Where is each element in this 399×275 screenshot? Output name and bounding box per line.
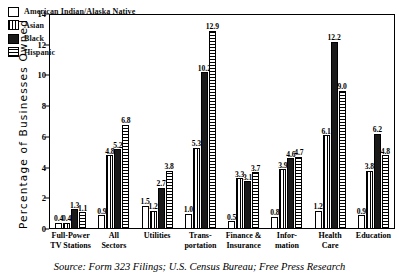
legend-item-hispanic: Hispanic [8, 46, 180, 60]
bar-value-label: 4.8 [381, 147, 391, 156]
bar-value-label: 6.2 [373, 125, 383, 134]
bar: 12.2 [331, 42, 338, 229]
bar-value-label: 6.8 [121, 116, 131, 125]
bar: 0.5 [228, 221, 235, 229]
x-axis-labels: Full-PowerTV StationsAllSectorsUtilities… [49, 231, 395, 255]
bar: 6.8 [122, 125, 129, 229]
bar-value-label: 6.1 [321, 127, 331, 136]
bar: 1.0 [185, 214, 192, 229]
source-caption: Source: Form 323 Filings; U.S. Census Bu… [0, 261, 399, 272]
bar-value-label: 0.5 [227, 213, 237, 222]
bar-group: 0.83.94.64.7 [265, 14, 308, 229]
bar: 3.1 [244, 181, 251, 229]
bar: 4.8 [382, 155, 389, 229]
bar-value-label: 1.2 [148, 202, 158, 211]
bar: 1.2 [315, 211, 322, 229]
bar: 4.8 [106, 155, 113, 229]
bar: 3.3 [236, 178, 243, 229]
x-category-label: Utilities [136, 231, 179, 241]
bar: 4.6 [287, 158, 294, 229]
x-category-label: Education [352, 231, 395, 241]
legend-label: Hispanic [24, 48, 55, 57]
x-category-label: Full-PowerTV Stations [49, 231, 92, 250]
legend-swatch-vertical-stripes-icon [8, 20, 19, 30]
bar-group: 1.26.112.29.0 [309, 14, 352, 229]
bar: 12.9 [209, 31, 216, 229]
bar: 6.1 [323, 135, 330, 229]
bar: 0.8 [271, 217, 278, 229]
bar: 1.1 [79, 212, 86, 229]
x-category-label: Trans-portation [179, 231, 222, 250]
bar: 10.2 [201, 72, 208, 229]
bar-value-label: 3.9 [278, 161, 288, 170]
bar-value-label: 3.8 [365, 162, 375, 171]
bar-value-label: 1.2 [313, 202, 323, 211]
x-category-label: AllSectors [92, 231, 135, 250]
x-category-label: HealthCare [309, 231, 352, 250]
legend-swatch-empty-icon [8, 7, 19, 17]
bar: 0.9 [98, 215, 105, 229]
chart-root: Percentage of Businesses Owned 024681012… [0, 0, 399, 275]
bar-value-label: 3.7 [251, 164, 261, 173]
x-category-label: Finance &Insurance [222, 231, 265, 250]
bar-value-label: 1.1 [78, 204, 88, 213]
bar: 3.7 [252, 172, 259, 229]
legend-label: Black [24, 34, 44, 43]
bar-value-label: 5.2 [113, 141, 123, 150]
bar-value-label: 12.9 [206, 22, 219, 31]
bar-value-label: 1.0 [184, 205, 194, 214]
bar-value-label: 9.0 [337, 82, 347, 91]
bar: 4.7 [295, 157, 302, 229]
bar-value-label: 0.4 [62, 214, 72, 223]
bar-group: 0.53.33.13.7 [222, 14, 265, 229]
bar: 3.8 [366, 171, 373, 229]
bar: 0.4 [63, 223, 70, 229]
legend: American Indian/Alaska Native Asian Blac… [8, 5, 180, 59]
legend-swatch-horizontal-stripes-icon [8, 47, 19, 57]
bar-value-label: 3.8 [164, 162, 174, 171]
bar: 1.2 [150, 211, 157, 229]
bar-group: 0.93.86.24.8 [352, 14, 395, 229]
legend-label: American Indian/Alaska Native [24, 7, 135, 16]
legend-item-american-indian: American Indian/Alaska Native [8, 5, 180, 19]
bar-value-label: 0.8 [270, 208, 280, 217]
bar-value-label: 12.2 [327, 33, 340, 42]
bar: 5.3 [193, 148, 200, 229]
legend-swatch-solid-icon [8, 34, 19, 44]
bar: 9.0 [339, 91, 346, 229]
x-category-label: Infor-mation [265, 231, 308, 250]
bar-group: 1.05.310.212.9 [179, 14, 222, 229]
legend-label: Asian [24, 21, 44, 30]
bar-value-label: 4.7 [294, 148, 304, 157]
bar-value-label: 0.9 [357, 207, 367, 216]
bar-value-label: 2.7 [156, 179, 166, 188]
bar: 0.4 [55, 223, 62, 229]
bar: 5.2 [114, 149, 121, 229]
bar-value-label: 0.9 [97, 207, 107, 216]
bar: 3.8 [166, 171, 173, 229]
bar: 3.9 [279, 169, 286, 229]
bar: 0.9 [358, 215, 365, 229]
bar: 2.7 [158, 188, 165, 229]
bar-value-label: 3.1 [243, 173, 253, 182]
legend-item-asian: Asian [8, 19, 180, 33]
legend-item-black: Black [8, 32, 180, 46]
bar-value-label: 5.3 [192, 139, 202, 148]
